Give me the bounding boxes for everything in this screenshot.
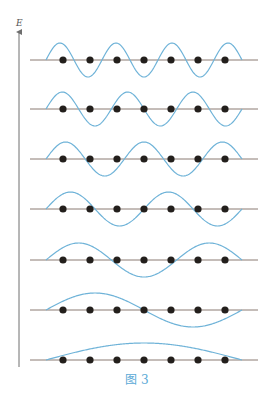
bead: [221, 105, 228, 112]
mode-row-n2: [30, 293, 258, 327]
bead: [167, 105, 174, 112]
mode-rows: [30, 43, 258, 364]
bead: [86, 56, 93, 63]
bead: [194, 205, 201, 212]
bead: [140, 256, 147, 263]
bead: [140, 306, 147, 313]
bead: [167, 306, 174, 313]
mode-row-n1: [30, 343, 258, 364]
bead: [86, 256, 93, 263]
bead: [221, 256, 228, 263]
bead: [113, 56, 120, 63]
bead: [221, 205, 228, 212]
bead: [113, 356, 120, 363]
bead: [194, 56, 201, 63]
figure-caption: 图 3: [0, 370, 274, 387]
bead: [221, 155, 228, 162]
energy-axis-label: E: [15, 18, 23, 28]
bead: [194, 155, 201, 162]
bead: [221, 306, 228, 313]
bead: [140, 155, 147, 162]
bead: [59, 155, 66, 162]
mode-row-n6: [30, 92, 258, 126]
standing-wave-diagram: E: [0, 0, 274, 410]
bead: [167, 56, 174, 63]
bead: [59, 105, 66, 112]
bead: [113, 306, 120, 313]
bead: [140, 56, 147, 63]
bead: [140, 205, 147, 212]
bead: [86, 155, 93, 162]
bead: [113, 105, 120, 112]
mode-row-n5: [30, 142, 258, 176]
bead: [167, 155, 174, 162]
mode-row-n4: [30, 192, 258, 226]
bead: [221, 56, 228, 63]
bead: [140, 356, 147, 363]
bead: [86, 356, 93, 363]
bead: [113, 256, 120, 263]
bead: [194, 105, 201, 112]
bead: [140, 105, 147, 112]
mode-row-n3: [30, 243, 258, 277]
bead: [86, 306, 93, 313]
bead: [86, 105, 93, 112]
bead: [167, 256, 174, 263]
bead: [59, 256, 66, 263]
bead: [86, 205, 93, 212]
mode-row-n7: [30, 43, 258, 77]
bead: [59, 205, 66, 212]
bead: [194, 356, 201, 363]
bead: [194, 306, 201, 313]
bead: [113, 205, 120, 212]
bead: [59, 356, 66, 363]
bead: [59, 56, 66, 63]
bead: [194, 256, 201, 263]
bead: [167, 205, 174, 212]
bead: [221, 356, 228, 363]
bead: [113, 155, 120, 162]
bead: [59, 306, 66, 313]
bead: [167, 356, 174, 363]
